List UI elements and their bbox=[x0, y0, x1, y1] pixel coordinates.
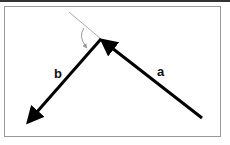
vector-diagram: b a bbox=[0, 0, 230, 145]
extension-line bbox=[69, 12, 101, 39]
vector-a bbox=[103, 41, 202, 118]
angle-arc-icon bbox=[81, 28, 86, 47]
vector-b bbox=[29, 39, 101, 121]
label-a: a bbox=[157, 64, 165, 79]
label-b: b bbox=[54, 66, 62, 81]
